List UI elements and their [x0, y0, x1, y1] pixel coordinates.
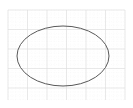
drawing-surface[interactable]	[0, 0, 133, 108]
drawing-canvas[interactable]	[0, 0, 133, 108]
